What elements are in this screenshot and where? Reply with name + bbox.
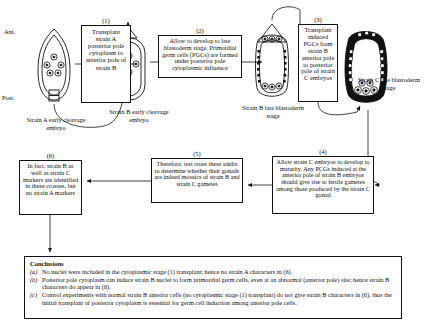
step-box-1: Transplant strain A posterior pole cytop…: [81, 25, 131, 103]
embryo-strain-c-late-blastoderm: [338, 20, 398, 110]
conclusion-text-c: Control experiments with normal strain B…: [42, 291, 392, 306]
step-number-1: (1): [81, 17, 131, 24]
step-number-6: (6): [19, 152, 82, 159]
step-box-2-text: Allow to develop to late blastoderm stag…: [161, 38, 239, 72]
step-number-3: (3): [298, 16, 338, 23]
caption-strain-b: Strain B early cleavage embryo: [104, 108, 174, 123]
caption-strain-c-late: Strain C late blastoderm stage: [356, 76, 422, 91]
conclusion-marker-c: (c): [30, 291, 42, 299]
conclusion-text-b: Posterior pole cytoplasm can induce stra…: [42, 276, 389, 291]
pgc-cells-posterior-b: [262, 83, 282, 90]
conclusion-text-a: No nuclei were included in the cytoplasm…: [42, 268, 292, 275]
conclusion-marker-a: (a): [30, 268, 42, 276]
caption-strain-b-late: Strain B late blastoderm stage: [240, 104, 306, 119]
conclusion-marker-b: (b): [30, 276, 42, 284]
step-number-5: (5): [151, 150, 243, 157]
caption-strain-a: Strain A early cleavage embryo: [20, 116, 92, 131]
conclusions-heading: Conclusions: [30, 260, 396, 268]
step-box-3-text: Transplant induced PGCs from strain B an…: [301, 27, 335, 82]
step-box-2: Allow to develop to late blastoderm stag…: [158, 35, 242, 78]
step-box-3: Transplant induced PGCs from strain B an…: [298, 24, 338, 102]
label-posterior: Post.: [2, 94, 30, 102]
conclusions-box: Conclusions (a)No nuclei were included i…: [24, 256, 402, 319]
step-box-6-text: In fact, strain B as well as strain C ma…: [22, 163, 79, 197]
conclusion-item-a: (a)No nuclei were included in the cytopl…: [30, 268, 396, 276]
nuclei-strain-a: [44, 54, 64, 76]
embryo-strain-b-late-blastoderm: [244, 20, 300, 106]
diagram-canvas: Ant. Post. Strain A early cleavage embry…: [0, 0, 424, 328]
step-box-4-text: Allow strain C embryos to develop to mat…: [275, 159, 371, 199]
label-anterior: Ant.: [4, 28, 30, 36]
step-box-1-text: Transplant strain A posterior pole cytop…: [84, 28, 128, 71]
blastoderm-cells-b: [257, 50, 287, 83]
step-box-4: Allow strain C embryos to develop to mat…: [272, 156, 374, 214]
step-box-5-text: Therefore, test cross these adults to de…: [154, 161, 240, 188]
embryo-strain-a: [33, 27, 75, 105]
step-box-6: In fact, strain B as well as strain C ma…: [19, 160, 82, 215]
step-number-2: (2): [158, 27, 242, 34]
conclusion-item-c: (c)Control experiments with normal strai…: [30, 291, 396, 306]
step-box-5: Therefore, test cross these adults to de…: [151, 158, 243, 203]
conclusion-item-b: (b)Posterior pole cytoplasm can induce s…: [30, 276, 396, 291]
step-number-4: (4): [272, 148, 374, 155]
